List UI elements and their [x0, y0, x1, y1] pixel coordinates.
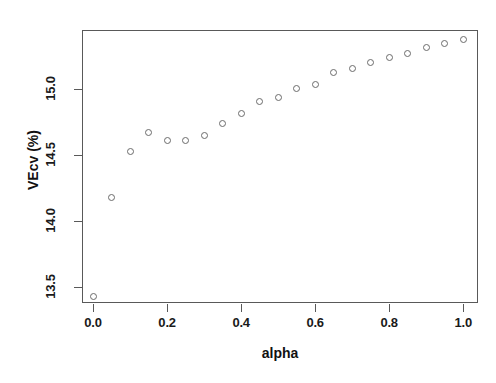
y-axis-tick — [74, 155, 82, 156]
x-axis-tick — [315, 304, 316, 312]
y-axis-tick-label: 14.5 — [43, 135, 58, 175]
y-axis-tick — [74, 89, 82, 90]
x-axis-title: alpha — [82, 345, 478, 361]
y-axis-tick-label: 14.0 — [43, 201, 58, 241]
x-axis-tick — [93, 304, 94, 312]
x-axis-tick — [167, 304, 168, 312]
x-axis-tick-label: 0.4 — [219, 315, 263, 330]
x-axis-tick-label: 0.2 — [145, 315, 189, 330]
x-axis-tick — [241, 304, 242, 312]
x-axis-tick-label: 0.6 — [293, 315, 337, 330]
x-axis-tick-label: 1.0 — [441, 315, 485, 330]
x-axis-tick — [463, 304, 464, 312]
chart-figure: 13.514.014.515.00.00.20.40.60.81.0 VEcv … — [0, 0, 496, 383]
x-axis-tick — [389, 304, 390, 312]
y-axis-title: VEcv (%) — [25, 105, 41, 215]
y-axis-tick-label: 13.5 — [43, 267, 58, 307]
plot-panel — [82, 30, 478, 303]
y-axis-tick — [74, 221, 82, 222]
x-axis-tick-label: 0.0 — [71, 315, 115, 330]
y-axis-tick — [74, 287, 82, 288]
y-axis-tick-label: 15.0 — [43, 69, 58, 109]
x-axis-tick-label: 0.8 — [367, 315, 411, 330]
